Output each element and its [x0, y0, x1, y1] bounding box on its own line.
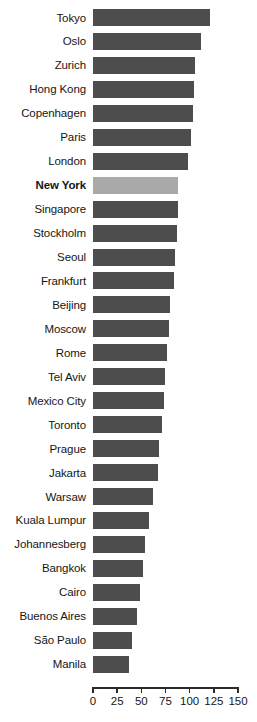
- bar: [93, 344, 167, 361]
- bar-row: New York: [0, 173, 257, 197]
- category-label: Tokyo: [0, 6, 86, 30]
- category-label: Kuala Lumpur: [0, 508, 86, 532]
- bar: [93, 608, 137, 625]
- x-axis-tick: [141, 687, 143, 693]
- bar: [93, 272, 174, 289]
- bar-row: Jakarta: [0, 461, 257, 485]
- category-label: São Paulo: [0, 628, 86, 652]
- bar-row: Johannesberg: [0, 532, 257, 556]
- category-label: Paris: [0, 125, 86, 149]
- x-axis-tick: [213, 687, 215, 693]
- category-label: Manila: [0, 652, 86, 676]
- category-label: Warsaw: [0, 485, 86, 509]
- bar: [93, 560, 143, 577]
- category-label: Oslo: [0, 29, 86, 53]
- x-axis-tick-label: 50: [135, 695, 148, 707]
- bar: [93, 129, 191, 146]
- bar: [93, 512, 149, 529]
- bar: [93, 296, 170, 313]
- category-label: New York: [0, 173, 86, 197]
- x-axis-tick-label: 25: [111, 695, 124, 707]
- bar: [93, 632, 132, 649]
- bar: [93, 584, 140, 601]
- bar: [93, 105, 193, 122]
- x-axis-tick: [116, 687, 118, 693]
- horizontal-bar-chart: TokyoOsloZurichHong KongCopenhagenParisL…: [0, 0, 257, 722]
- bar-row: Frankfurt: [0, 269, 257, 293]
- bar-row: Paris: [0, 125, 257, 149]
- bar: [93, 440, 159, 457]
- bar: [93, 81, 194, 98]
- bar: [93, 416, 162, 433]
- bar-row: Hong Kong: [0, 77, 257, 101]
- bar-row: Buenos Aires: [0, 604, 257, 628]
- bar-row: Tokyo: [0, 6, 257, 30]
- bar: [93, 201, 178, 218]
- bar: [93, 368, 165, 385]
- bar-row: Bangkok: [0, 556, 257, 580]
- category-label: Rome: [0, 341, 86, 365]
- bar: [93, 57, 195, 74]
- bar: [93, 392, 164, 409]
- bar-row: Beijing: [0, 293, 257, 317]
- bar-row: São Paulo: [0, 628, 257, 652]
- x-axis-tick-label: 75: [159, 695, 172, 707]
- bar-row: Kuala Lumpur: [0, 508, 257, 532]
- x-axis-tick-label: 100: [180, 695, 199, 707]
- bar-row: Warsaw: [0, 485, 257, 509]
- category-label: Singapore: [0, 197, 86, 221]
- category-label: Tel Aviv: [0, 365, 86, 389]
- category-label: Jakarta: [0, 461, 86, 485]
- category-label: Hong Kong: [0, 77, 86, 101]
- x-axis-tick: [237, 687, 239, 693]
- bar-row: Cairo: [0, 580, 257, 604]
- category-label: Beijing: [0, 293, 86, 317]
- bar-row: Copenhagen: [0, 101, 257, 125]
- bar-row: Toronto: [0, 413, 257, 437]
- bar-row: Oslo: [0, 29, 257, 53]
- bar-row: Zurich: [0, 53, 257, 77]
- x-axis-tick-label: 0: [90, 695, 96, 707]
- category-label: Buenos Aires: [0, 604, 86, 628]
- category-label: Johannesberg: [0, 532, 86, 556]
- category-label: Cairo: [0, 580, 86, 604]
- bar-row: Prague: [0, 437, 257, 461]
- category-label: Toronto: [0, 413, 86, 437]
- category-label: Copenhagen: [0, 101, 86, 125]
- bar: [93, 153, 188, 170]
- category-label: Prague: [0, 437, 86, 461]
- category-label: Frankfurt: [0, 269, 86, 293]
- bar: [93, 9, 210, 26]
- bar-row: London: [0, 149, 257, 173]
- x-axis-tick: [92, 687, 94, 693]
- bar: [93, 33, 201, 50]
- bar-row: Seoul: [0, 245, 257, 269]
- bar: [93, 464, 158, 481]
- bar-row: Mexico City: [0, 389, 257, 413]
- bar: [93, 320, 169, 337]
- category-label: Zurich: [0, 53, 86, 77]
- x-axis-tick-label: 125: [204, 695, 223, 707]
- bar-row: Singapore: [0, 197, 257, 221]
- bar: [93, 225, 177, 242]
- bar-row: Tel Aviv: [0, 365, 257, 389]
- category-label: Bangkok: [0, 556, 86, 580]
- bar: [93, 249, 175, 266]
- x-axis-tick: [189, 687, 191, 693]
- x-axis-tick-label: 150: [228, 695, 247, 707]
- category-label: Seoul: [0, 245, 86, 269]
- category-label: Mexico City: [0, 389, 86, 413]
- bar-row: Rome: [0, 341, 257, 365]
- bar: [93, 536, 145, 553]
- bar-highlighted: [93, 177, 178, 194]
- category-label: Stockholm: [0, 221, 86, 245]
- bar: [93, 488, 153, 505]
- bar-row: Moscow: [0, 317, 257, 341]
- bar-row: Stockholm: [0, 221, 257, 245]
- bar-row: Manila: [0, 652, 257, 676]
- category-label: Moscow: [0, 317, 86, 341]
- bar: [93, 656, 129, 673]
- x-axis-tick: [165, 687, 167, 693]
- category-label: London: [0, 149, 86, 173]
